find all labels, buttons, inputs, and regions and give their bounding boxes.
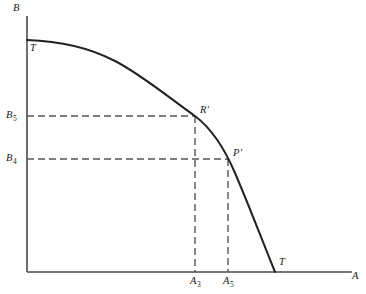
x-axis-label: A (352, 271, 359, 282)
x-tick-a5-base: A (223, 275, 230, 286)
point-label-r-prime: R′ (200, 105, 209, 116)
curve-endpoint-label-top: T (30, 43, 36, 54)
y-tick-b4-base: B (6, 152, 13, 163)
y-tick-b4-subscript: 4 (13, 157, 17, 166)
y-tick-label-b5: B5 (6, 110, 17, 121)
y-axis-label: B (13, 3, 20, 14)
x-tick-a3-base: A (190, 275, 197, 286)
point-p-base: P (233, 147, 240, 158)
y-tick-b5-subscript: 5 (13, 114, 17, 123)
point-label-p-prime: P′ (233, 148, 242, 159)
point-r-prime-mark: ′ (207, 104, 209, 115)
x-tick-label-a3: A3 (190, 276, 201, 287)
x-tick-a5-subscript: 5 (230, 280, 234, 289)
curve-endpoint-label-bottom: T (279, 257, 285, 268)
x-tick-label-a5: A5 (223, 276, 234, 287)
y-tick-b5-base: B (6, 109, 13, 120)
plot-canvas (0, 0, 366, 294)
point-p-prime-mark: ′ (240, 147, 242, 158)
y-tick-label-b4: B4 (6, 153, 17, 164)
ppf-figure: B A T T B5 B4 A3 A5 R′ P′ (0, 0, 366, 294)
point-r-base: R (200, 104, 207, 115)
x-tick-a3-subscript: 3 (197, 280, 201, 289)
